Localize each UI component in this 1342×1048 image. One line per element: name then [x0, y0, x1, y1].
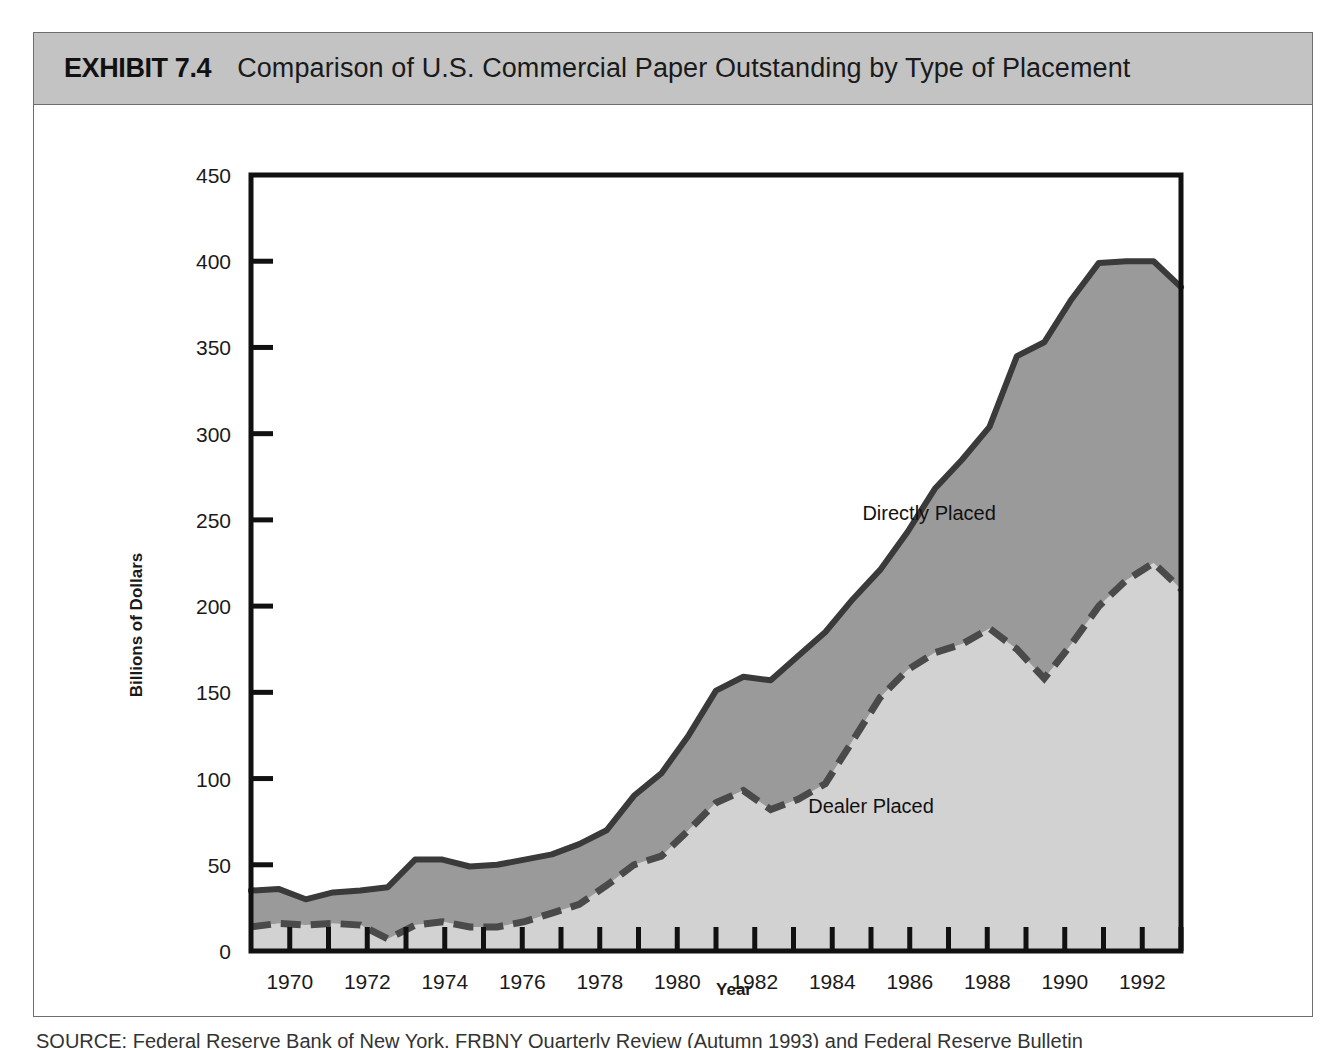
x-tick-label: 1992	[1119, 970, 1166, 993]
x-tick-label: 1970	[266, 970, 313, 993]
x-tick-label: 1972	[344, 970, 391, 993]
x-tick-label: 1986	[886, 970, 933, 993]
y-tick-label: 100	[196, 768, 231, 791]
series-annotation: Directly Placed	[862, 502, 995, 524]
source-note: SOURCE: Federal Reserve Bank of New York…	[36, 1029, 1326, 1048]
y-axis-ticks	[251, 261, 273, 865]
y-tick-label: 350	[196, 336, 231, 359]
x-tick-label: 1974	[421, 970, 468, 993]
exhibit-title: Comparison of U.S. Commercial Paper Outs…	[237, 53, 1130, 84]
x-tick-label: 1976	[499, 970, 546, 993]
y-tick-label: 300	[196, 423, 231, 446]
exhibit-frame: EXHIBIT 7.4 Comparison of U.S. Commercia…	[33, 32, 1313, 1017]
y-tick-label: 200	[196, 595, 231, 618]
y-tick-label: 250	[196, 509, 231, 532]
x-tick-label: 1984	[809, 970, 856, 993]
y-axis-title: Billions of Dollars	[127, 553, 146, 698]
x-axis-title: Year	[716, 980, 752, 999]
y-tick-label: 400	[196, 250, 231, 273]
y-axis-tick-labels: 050100150200250300350400450	[196, 164, 231, 963]
y-tick-label: 150	[196, 681, 231, 704]
exhibit-header: EXHIBIT 7.4 Comparison of U.S. Commercia…	[34, 33, 1312, 105]
x-tick-label: 1990	[1041, 970, 1088, 993]
series-annotation: Dealer Placed	[808, 795, 934, 817]
stacked-area-chart: 050100150200250300350400450 197019721974…	[34, 105, 1312, 1015]
x-tick-label: 1978	[576, 970, 623, 993]
chart-plot-container: 050100150200250300350400450 197019721974…	[34, 105, 1312, 1017]
x-tick-label: 1980	[654, 970, 701, 993]
chart-series-areas	[251, 261, 1181, 951]
x-tick-label: 1988	[964, 970, 1011, 993]
exhibit-number-label: EXHIBIT 7.4	[64, 53, 211, 84]
y-tick-label: 450	[196, 164, 231, 187]
y-tick-label: 50	[208, 854, 231, 877]
y-tick-label: 0	[219, 940, 231, 963]
